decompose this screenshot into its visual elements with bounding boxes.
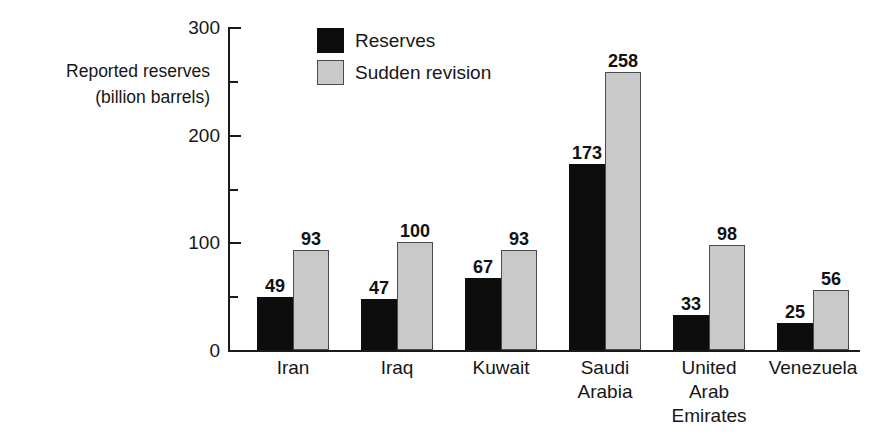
bar-united-arab-emirates-revision[interactable]: 98 (709, 245, 745, 351)
y-axis-title-line-1: Reported reserves (66, 61, 210, 81)
bar-saudi-arabia-revision[interactable]: 258 (605, 72, 641, 350)
y-tick-label-300: 300 (188, 18, 220, 37)
bar-iran-reserves[interactable]: 49 (257, 297, 293, 350)
legend-swatch-gray-icon (317, 60, 344, 85)
bar-value-united-arab-emirates-revision: 98 (717, 225, 737, 243)
legend-item-reserves[interactable]: Reserves (317, 24, 491, 56)
category-label-venezuela-line-1: Venezuela (738, 356, 888, 380)
bar-chart-figure: Reported reserves (billion barrels) 300 … (0, 0, 891, 438)
y-axis-title: Reported reserves (billion barrels) (20, 58, 210, 110)
bar-value-iraq-reserves: 47 (369, 279, 389, 297)
category-label-united-arab-emirates-line-2: Arab (634, 380, 784, 404)
y-tick-label-200: 200 (188, 125, 220, 144)
category-label-venezuela: Venezuela (738, 356, 888, 380)
bar-saudi-arabia-reserves[interactable]: 173 (569, 164, 605, 350)
bar-value-kuwait-revision: 93 (509, 230, 529, 248)
x-axis-line (228, 350, 860, 352)
bar-value-united-arab-emirates-reserves: 33 (681, 295, 701, 313)
bar-value-iran-reserves: 49 (265, 277, 285, 295)
y-tick-label-100: 100 (188, 233, 220, 252)
bar-venezuela-reserves[interactable]: 25 (777, 323, 813, 350)
bar-iraq-reserves[interactable]: 47 (361, 299, 397, 350)
bar-iraq-revision[interactable]: 100 (397, 242, 433, 350)
bar-value-iraq-revision: 100 (400, 222, 430, 240)
bar-kuwait-revision[interactable]: 93 (501, 250, 537, 350)
bar-value-venezuela-revision: 56 (821, 270, 841, 288)
bar-value-venezuela-reserves: 25 (785, 303, 805, 321)
bar-value-saudi-arabia-reserves: 173 (572, 144, 602, 162)
bar-kuwait-reserves[interactable]: 67 (465, 278, 501, 350)
bar-value-saudi-arabia-revision: 258 (608, 52, 638, 70)
legend-swatch-black-icon (317, 28, 344, 53)
y-axis-title-line-2: (billion barrels) (20, 84, 210, 110)
bar-venezuela-revision[interactable]: 56 (813, 290, 849, 350)
bar-value-iran-revision: 93 (301, 230, 321, 248)
bar-iran-revision[interactable]: 93 (293, 250, 329, 350)
bar-value-kuwait-reserves: 67 (473, 258, 493, 276)
legend-label-reserves: Reserves (355, 31, 435, 50)
chart-legend: Reserves Sudden revision (317, 24, 491, 88)
category-label-united-arab-emirates-line-3: Emirates (634, 404, 784, 428)
bar-united-arab-emirates-reserves[interactable]: 33 (673, 315, 709, 351)
legend-label-sudden-revision: Sudden revision (355, 63, 491, 82)
legend-item-sudden-revision[interactable]: Sudden revision (317, 56, 491, 88)
